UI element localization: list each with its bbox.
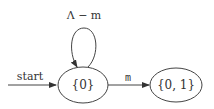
state-0-1-label: {0, 1}: [157, 78, 195, 92]
self-loop-arrow: [72, 28, 96, 67]
m-label: m: [125, 72, 131, 83]
start-label: start: [17, 70, 44, 83]
state-diagram: start Λ − m {0} m {0, 1}: [0, 0, 214, 109]
state-0-label: {0}: [72, 78, 95, 92]
start-transition: start: [8, 70, 56, 85]
m-transition: m: [108, 72, 149, 85]
self-loop-label: Λ − m: [66, 9, 102, 22]
self-loop-transition: Λ − m: [66, 9, 102, 67]
state-0-1: {0, 1}: [150, 68, 202, 102]
state-0: {0}: [58, 67, 108, 103]
